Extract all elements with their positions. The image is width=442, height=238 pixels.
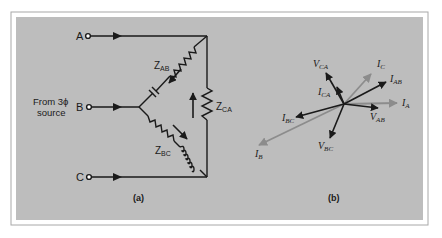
terminal-a bbox=[86, 34, 91, 39]
terminal-b bbox=[87, 105, 92, 110]
figure-panel bbox=[16, 17, 423, 220]
terminal-a-label: A bbox=[76, 30, 84, 42]
terminal-c-label: C bbox=[76, 171, 84, 183]
phasor-i-a bbox=[344, 103, 397, 104]
source-label-line1: From 3ϕ bbox=[33, 96, 68, 107]
caption-a: (a) bbox=[133, 193, 144, 203]
caption-b: (b) bbox=[328, 193, 340, 203]
source-label-line2: source bbox=[37, 107, 66, 118]
delta-load-figure: A B C From 3ϕ source ZAB ZBC ZCA (a) VCA bbox=[0, 0, 442, 238]
terminal-c bbox=[87, 175, 92, 180]
terminal-b-label: B bbox=[76, 101, 83, 113]
